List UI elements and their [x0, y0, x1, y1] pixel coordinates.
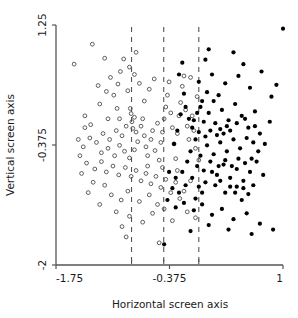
data-point-filled — [182, 201, 186, 205]
data-point-filled — [258, 131, 262, 135]
data-point-filled — [230, 164, 234, 168]
data-point-filled — [200, 99, 204, 103]
data-point-filled — [245, 136, 249, 140]
data-point-filled — [172, 142, 176, 146]
data-point-filled — [281, 27, 285, 31]
x-tick-label-2: 1 — [276, 272, 283, 284]
data-point-filled — [241, 62, 245, 66]
data-point-filled — [200, 191, 204, 195]
data-point-filled — [192, 208, 196, 212]
data-point-filled — [238, 146, 242, 150]
data-point-filled — [185, 160, 189, 164]
data-point-filled — [259, 69, 263, 73]
data-point-filled — [188, 229, 192, 233]
data-point-filled — [231, 137, 235, 141]
data-point-filled — [246, 192, 250, 196]
data-point-filled — [174, 205, 178, 209]
data-point-filled — [217, 164, 221, 168]
data-point-filled — [193, 137, 197, 141]
data-point-filled — [195, 111, 199, 115]
x-tick-label-0: -1.75 — [56, 272, 83, 284]
data-point-filled — [210, 170, 214, 174]
data-point-filled — [177, 72, 181, 76]
data-point-filled — [245, 211, 249, 215]
data-point-filled — [220, 207, 224, 211]
data-point-filled — [251, 140, 255, 144]
data-point-filled — [197, 80, 201, 84]
data-point-filled — [221, 131, 225, 135]
data-point-filled — [195, 164, 199, 168]
data-point-filled — [243, 117, 247, 121]
y-axis-title: Vertical screen axis — [4, 94, 16, 196]
data-point-filled — [226, 118, 230, 122]
data-point-filled — [213, 121, 217, 125]
data-point-filled — [180, 61, 184, 65]
data-point-filled — [253, 109, 257, 113]
data-point-filled — [208, 129, 212, 133]
data-point-filled — [235, 167, 239, 171]
data-point-filled — [193, 196, 197, 200]
data-point-filled — [190, 126, 194, 130]
data-point-filled — [221, 162, 225, 166]
data-point-filled — [167, 170, 171, 174]
data-point-filled — [241, 186, 245, 190]
data-point-filled — [162, 242, 166, 246]
data-point-filled — [228, 185, 232, 189]
data-point-filled — [170, 186, 174, 190]
data-point-filled — [236, 74, 240, 78]
data-point-filled — [231, 217, 235, 221]
data-point-filled — [274, 83, 278, 87]
y-tick-label-1: -0.375 — [36, 128, 48, 162]
data-point-filled — [223, 158, 227, 162]
y-tick-label-0: -2 — [36, 260, 48, 270]
data-point-filled — [175, 129, 179, 133]
data-point-filled — [174, 176, 178, 180]
scatter-plot-figure: -1.75-0.3751-2-0.3751.25 Horizontal scre… — [0, 0, 298, 318]
data-point-filled — [246, 126, 250, 130]
data-point-filled — [228, 176, 232, 180]
data-point-filled — [269, 95, 273, 99]
data-point-filled — [184, 105, 188, 109]
data-point-filled — [235, 121, 239, 125]
data-point-filled — [241, 179, 245, 183]
data-point-filled — [205, 143, 209, 147]
data-point-filled — [271, 227, 275, 231]
data-point-filled — [261, 173, 265, 177]
data-point-filled — [179, 112, 183, 116]
data-point-filled — [228, 129, 232, 133]
data-point-filled — [217, 93, 221, 97]
data-point-filled — [220, 108, 224, 112]
data-point-filled — [256, 149, 260, 153]
data-point-filled — [233, 102, 237, 106]
data-point-filled — [226, 227, 230, 231]
data-point-filled — [258, 222, 262, 226]
data-point-filled — [254, 160, 258, 164]
data-point-filled — [207, 223, 211, 227]
data-point-filled — [212, 99, 216, 103]
data-point-filled — [223, 81, 227, 85]
data-point-filled — [223, 191, 227, 195]
data-point-filled — [268, 120, 272, 124]
data-point-filled — [250, 232, 254, 236]
y-tick-label-2: 1.25 — [36, 13, 48, 36]
data-point-filled — [207, 47, 211, 51]
data-point-filled — [236, 157, 240, 161]
data-point-filled — [187, 117, 191, 121]
data-point-filled — [213, 183, 217, 187]
data-point-filled — [225, 124, 229, 128]
data-point-filled — [208, 160, 212, 164]
data-point-filled — [210, 72, 214, 76]
data-point-filled — [212, 152, 216, 156]
data-point-filled — [231, 50, 235, 54]
data-point-filled — [233, 191, 237, 195]
data-point-filled — [263, 142, 267, 146]
data-point-filled — [218, 127, 222, 131]
data-point-filled — [207, 111, 211, 115]
data-point-filled — [203, 180, 207, 184]
data-point-filled — [218, 179, 222, 183]
data-point-filled — [188, 149, 192, 153]
data-point-filled — [203, 58, 207, 62]
data-point-filled — [203, 134, 207, 138]
data-point-filled — [225, 149, 229, 153]
data-point-filled — [182, 92, 186, 96]
